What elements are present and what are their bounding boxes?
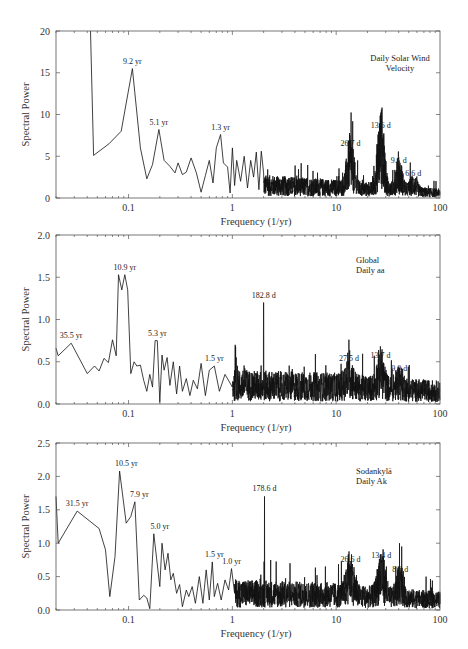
x-tick-label: 10 [331, 614, 341, 625]
peak-annotation: 1.0 yr [222, 557, 241, 566]
y-tick-label: 2.0 [38, 230, 51, 241]
y-tick-label: 0.5 [38, 356, 51, 367]
x-tick-label: 100 [433, 202, 448, 213]
x-tick-label: 1 [230, 408, 235, 419]
y-tick-label: 2.0 [38, 471, 51, 482]
y-axis-title: Spectral Power [20, 287, 31, 351]
peak-annotation: 35.5 yr [60, 331, 83, 340]
y-tick-label: 2.5 [38, 438, 51, 449]
x-axis-title: Frequency (1/yr) [221, 422, 292, 434]
peak-annotation: 1.5 yr [205, 550, 224, 559]
peak-annotation: 9.1 d [391, 156, 407, 165]
chart-panel-3: 0.11101000.00.51.01.52.02.5Frequency (1/… [20, 438, 448, 641]
peak-annotation: 26.6 d [340, 555, 360, 564]
peak-annotation: 178.6 d [253, 484, 277, 493]
x-tick-label: 0.1 [122, 614, 135, 625]
peak-annotation: 26.7 d [340, 139, 360, 148]
y-tick-label: 1.0 [38, 314, 51, 325]
panel-title: Velocity [386, 63, 415, 73]
x-tick-label: 0.1 [122, 202, 135, 213]
peak-annotation: 5.0 yr [150, 522, 169, 531]
y-axis-title: Spectral Power [20, 494, 31, 558]
peak-annotation: 8.8 d [392, 565, 408, 574]
panel-title: Daily aa [356, 265, 385, 275]
peak-annotation: 13.4 d [371, 551, 391, 560]
peak-annotation: 9.2 yr [123, 57, 142, 66]
panel-title: Global [356, 255, 380, 265]
y-tick-label: 5 [45, 151, 50, 162]
x-tick-label: 1 [230, 614, 235, 625]
peak-annotation: 7.9 yr [130, 490, 149, 499]
spectrum-line [56, 275, 440, 403]
y-tick-label: 20 [40, 26, 50, 37]
peak-annotation: 5.1 yr [150, 118, 169, 127]
panel-title: Daily Ak [356, 476, 388, 486]
x-tick-label: 100 [433, 614, 448, 625]
x-tick-label: 1 [230, 202, 235, 213]
y-axis-title: Spectral Power [20, 82, 31, 146]
x-tick-label: 100 [433, 408, 448, 419]
y-tick-label: 0 [45, 193, 50, 204]
peak-annotation: 27.5 d [339, 354, 359, 363]
y-tick-label: 15 [40, 67, 50, 78]
x-tick-label: 10 [331, 202, 341, 213]
chart-panel-2: 0.11101000.00.51.01.52.0Frequency (1/yr)… [20, 230, 448, 435]
y-tick-label: 1.5 [38, 272, 51, 283]
y-tick-label: 0.0 [38, 399, 51, 410]
peak-annotation: 1.3 yr [211, 123, 230, 132]
y-tick-label: 1.0 [38, 538, 51, 549]
peak-annotation: 31.5 yr [66, 499, 89, 508]
y-tick-label: 0.5 [38, 571, 51, 582]
peak-annotation: 1.5 yr [205, 354, 224, 363]
peak-annotation: 10.5 yr [115, 459, 138, 468]
peak-annotation: 10.9 yr [113, 263, 136, 272]
x-axis-title: Frequency (1/yr) [221, 216, 292, 228]
spectral-power-figure: 0.111010005101520Frequency (1/yr)Spectra… [0, 0, 468, 649]
peak-annotation: 9.0 d [391, 364, 407, 373]
panel-title: Sodankylä [356, 466, 392, 476]
panel-title: Daily Solar Wind [370, 53, 430, 63]
x-tick-label: 10 [331, 408, 341, 419]
y-tick-label: 10 [40, 109, 50, 120]
peak-annotation: 182.8 d [252, 291, 276, 300]
peak-annotation: 13.7 d [370, 351, 390, 360]
x-tick-label: 0.1 [122, 408, 135, 419]
peak-annotation: 6.6 d [405, 169, 421, 178]
peak-annotation: 5.3 yr [148, 329, 167, 338]
y-tick-label: 0.0 [38, 605, 51, 616]
y-tick-label: 1.5 [38, 504, 51, 515]
x-axis-title: Frequency (1/yr) [221, 628, 292, 640]
spectrum-line [56, 471, 440, 609]
chart-panel-1: 0.111010005101520Frequency (1/yr)Spectra… [20, 26, 448, 229]
peak-annotation: 13.6 d [371, 121, 391, 130]
